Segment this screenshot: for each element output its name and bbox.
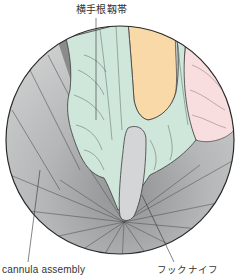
label-cannula-assembly: cannula assembly: [2, 265, 85, 275]
label-hook-knife: フックナイフ: [157, 265, 218, 275]
label-transverse-carpal-ligament: 横手根靱帯: [76, 5, 127, 15]
endoscopic-illustration: [0, 0, 240, 279]
